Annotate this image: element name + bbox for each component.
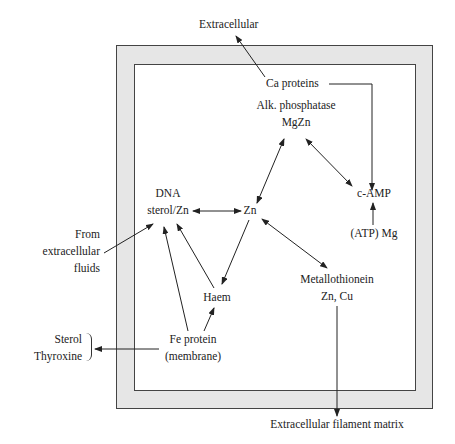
arrow-fe-sterol [164,227,188,331]
alk-line2: MgZn [250,114,342,131]
label-filament-matrix: Extracellular filament matrix [262,416,412,433]
arrow-alk-zn [257,139,284,203]
label-atp-mg: (ATP) Mg [347,225,401,242]
label-camp: c-AMP [353,185,395,202]
label-zn: Zn [242,202,258,219]
label-metallothionein: Metallothionein Zn, Cu [293,271,381,305]
sterol-line1: Sterol [26,331,82,348]
arrows-layer [0,0,455,444]
label-haem: Haem [201,289,233,306]
arrow-haem-sterol [177,224,214,288]
fe-line2: (membrane) [160,348,226,365]
from-line3: fluids [28,260,100,277]
arrow-fluids-sterol [104,224,153,253]
arrow-ca-to-extracellular [236,36,265,77]
label-extracellular: Extracellular [199,16,258,33]
dna-line1: DNA [140,185,196,202]
fe-line1: Fe protein [160,331,226,348]
label-ca-proteins: Ca proteins [266,75,319,92]
label-fe-protein: Fe protein (membrane) [160,331,226,365]
arrow-alk-camp [306,139,352,186]
arrow-fe-haem [204,308,214,331]
alk-line1: Alk. phosphatase [250,97,342,114]
label-alk-phosphatase: Alk. phosphatase MgZn [250,97,342,131]
arrow-zn-metallo [262,219,327,268]
sterol-line2: Thyroxine [26,348,82,365]
brace-icon [85,333,92,361]
label-from-extracellular: From extracellular fluids [28,226,100,277]
metallo-line1: Metallothionein [293,271,381,288]
label-dna-sterol: DNA sterol/Zn [140,185,196,219]
metallo-line2: Zn, Cu [293,288,381,305]
arrow-zn-haem [222,220,249,284]
dna-line2: sterol/Zn [140,202,196,219]
from-line1: From [28,226,100,243]
from-line2: extracellular [28,243,100,260]
label-sterol-thyroxine: Sterol Thyroxine [26,331,82,365]
